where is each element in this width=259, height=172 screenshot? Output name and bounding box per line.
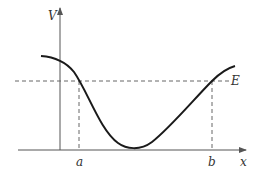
turning-point-b-label: b: [208, 155, 216, 169]
turning-point-a-label: a: [76, 155, 83, 169]
potential-diagram: V x E a b: [0, 0, 259, 172]
energy-label: E: [230, 74, 240, 88]
x-axis-label: x: [240, 155, 247, 169]
y-axis-label: V: [48, 9, 58, 23]
potential-curve: [41, 56, 235, 148]
